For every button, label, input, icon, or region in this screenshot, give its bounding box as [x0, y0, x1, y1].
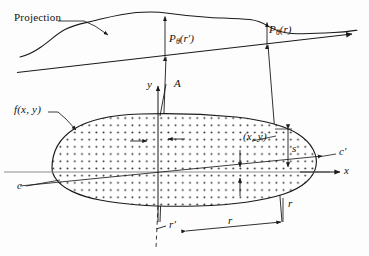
- x-axis-label: x: [344, 165, 349, 176]
- r-prime-dimension-label: r′: [169, 219, 176, 230]
- line-A-label: A: [174, 78, 181, 89]
- object-region-f: [52, 114, 316, 207]
- c-label-leader-group: [26, 180, 60, 186]
- p-symbol: P: [169, 32, 176, 44]
- f-label-leader-line: [48, 112, 76, 130]
- f-xy-label: f(x, y): [14, 104, 41, 115]
- p-theta-r-prime-arg: (r′): [180, 32, 194, 44]
- p-theta-r-label: Pθ(r): [269, 24, 291, 37]
- s-dimension-label: s: [292, 143, 296, 154]
- r-prime-dimension-arrow: [156, 226, 166, 229]
- c-prime-label: c′: [339, 146, 347, 157]
- figure-canvas: Projection Pθ(r′) Pθ(r) y A f(x, y) (x, …: [0, 0, 369, 256]
- object-region-group: [52, 114, 316, 207]
- c-label-leader-line: [26, 180, 60, 186]
- y-axis-label: y: [147, 79, 152, 90]
- p-symbol: P: [269, 23, 276, 35]
- cprime-label-leader-line: [318, 154, 336, 157]
- r-vertical-dimension-label: r: [288, 198, 292, 209]
- projection-label: Projection: [14, 12, 61, 23]
- p-theta-r-prime-label: Pθ(r′): [169, 33, 194, 46]
- c-label: c: [17, 180, 22, 191]
- r-dimension-arrow: [186, 222, 281, 231]
- cprime-label-leader-group: [318, 154, 336, 157]
- f-label-leader-group: [48, 112, 76, 130]
- line-A: [160, 84, 166, 116]
- point-xy-label: (x, y): [243, 131, 267, 142]
- r-dimension-label: r: [228, 215, 232, 226]
- line-A-group: [160, 84, 166, 116]
- p-theta-r-arg: (r): [280, 23, 292, 35]
